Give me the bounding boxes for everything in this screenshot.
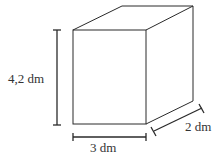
width-label: 3 dm <box>90 140 116 155</box>
depth-label: 2 dm <box>185 119 211 134</box>
height-dimension <box>53 30 61 125</box>
height-label: 4,2 dm <box>8 71 44 86</box>
prism-diagram: 4,2 dm 3 dm 2 dm <box>0 0 222 163</box>
front-face <box>73 30 146 124</box>
right-face <box>146 6 193 124</box>
top-face <box>73 6 193 30</box>
